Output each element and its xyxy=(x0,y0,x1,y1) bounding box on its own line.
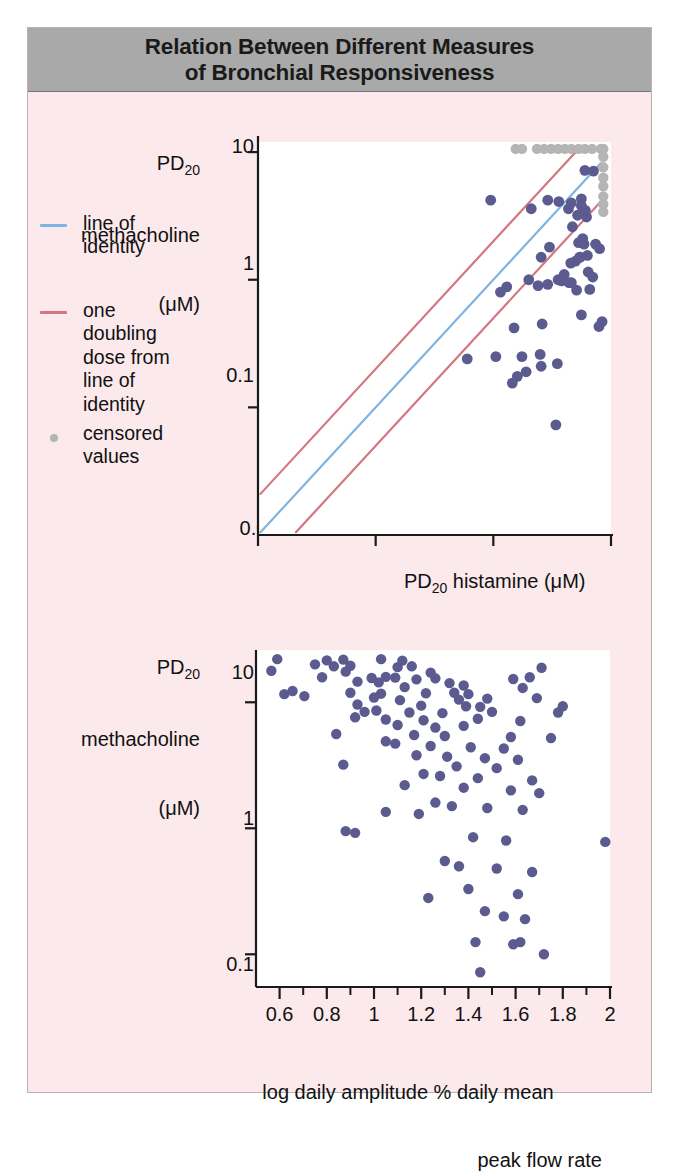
data-point xyxy=(508,674,518,684)
data-point xyxy=(404,707,414,717)
data-point xyxy=(350,828,360,838)
data-point xyxy=(409,730,419,740)
data-point xyxy=(553,196,564,207)
data-point xyxy=(480,753,490,763)
data-point xyxy=(473,773,483,783)
data-point xyxy=(317,672,327,682)
data-point xyxy=(506,785,516,795)
censored-point xyxy=(517,144,527,154)
data-point xyxy=(584,284,595,295)
data-point xyxy=(535,349,546,360)
data-point xyxy=(345,688,355,698)
data-point xyxy=(553,274,564,285)
data-point xyxy=(458,782,468,792)
data-point xyxy=(490,351,501,362)
data-point xyxy=(458,721,468,731)
data-point xyxy=(381,714,391,724)
data-point xyxy=(451,761,461,771)
data-point xyxy=(390,672,400,682)
data-point xyxy=(454,861,464,871)
data-point xyxy=(279,689,289,699)
data-point xyxy=(513,755,523,765)
data-point xyxy=(525,672,535,682)
data-point xyxy=(517,805,527,815)
bottom-chart-xlabel: log daily amplitude % daily mean peak fl… xyxy=(188,1035,628,1175)
data-point xyxy=(520,914,530,924)
data-point xyxy=(423,893,433,903)
data-point xyxy=(527,775,537,785)
censored-point xyxy=(598,181,608,191)
censored-point xyxy=(598,152,608,162)
data-point xyxy=(475,967,485,977)
data-point xyxy=(600,837,610,847)
data-point xyxy=(442,751,452,761)
data-point xyxy=(492,763,502,773)
top-scatter-plot[interactable] xyxy=(28,28,653,558)
data-point xyxy=(577,233,588,244)
data-point xyxy=(437,708,447,718)
data-point xyxy=(532,693,542,703)
data-point xyxy=(475,702,485,712)
data-point xyxy=(546,733,556,743)
data-point xyxy=(418,769,428,779)
data-point xyxy=(338,759,348,769)
data-point xyxy=(509,322,520,333)
data-point xyxy=(381,807,391,817)
data-point xyxy=(576,310,587,321)
data-point xyxy=(466,742,476,752)
data-point xyxy=(499,743,509,753)
data-point xyxy=(392,662,402,672)
data-point xyxy=(487,707,497,717)
data-point xyxy=(583,267,594,278)
data-point xyxy=(550,419,561,430)
data-point xyxy=(331,729,341,739)
data-point xyxy=(580,205,591,216)
data-point xyxy=(517,351,528,362)
data-point xyxy=(359,707,369,717)
data-point xyxy=(418,715,428,725)
data-point xyxy=(537,319,548,330)
data-point xyxy=(542,195,553,206)
data-point xyxy=(299,691,309,701)
data-point xyxy=(523,274,534,285)
data-point xyxy=(350,712,360,722)
data-point xyxy=(272,654,282,664)
data-point xyxy=(463,689,473,699)
data-point xyxy=(462,353,473,364)
data-point xyxy=(517,683,527,693)
data-point xyxy=(444,678,454,688)
bottom-xlabel-line-1: log daily amplitude % daily mean xyxy=(188,1081,628,1104)
data-point xyxy=(266,666,276,676)
data-point xyxy=(533,280,544,291)
data-point xyxy=(495,287,506,298)
data-point xyxy=(473,714,483,724)
data-point xyxy=(594,243,605,254)
censored-point xyxy=(598,207,608,217)
data-point xyxy=(588,166,599,177)
data-point xyxy=(352,676,362,686)
data-point xyxy=(527,867,537,877)
data-point xyxy=(340,666,350,676)
data-point xyxy=(340,826,350,836)
data-point xyxy=(539,949,549,959)
data-point xyxy=(376,654,386,664)
data-point xyxy=(501,835,511,845)
data-point xyxy=(399,780,409,790)
data-point xyxy=(470,937,480,947)
data-point xyxy=(571,285,582,296)
data-point xyxy=(492,863,502,873)
data-point xyxy=(374,677,384,687)
data-point xyxy=(421,688,431,698)
data-point xyxy=(512,371,523,382)
data-point xyxy=(447,801,457,811)
data-point xyxy=(369,692,379,702)
data-point xyxy=(526,203,537,214)
data-point xyxy=(411,750,421,760)
data-point xyxy=(395,695,405,705)
censored-point xyxy=(598,162,608,172)
data-point xyxy=(552,358,563,369)
data-point xyxy=(515,716,525,726)
bottom-scatter-plot[interactable] xyxy=(28,588,653,1038)
data-point xyxy=(430,673,440,683)
data-point xyxy=(310,659,320,669)
